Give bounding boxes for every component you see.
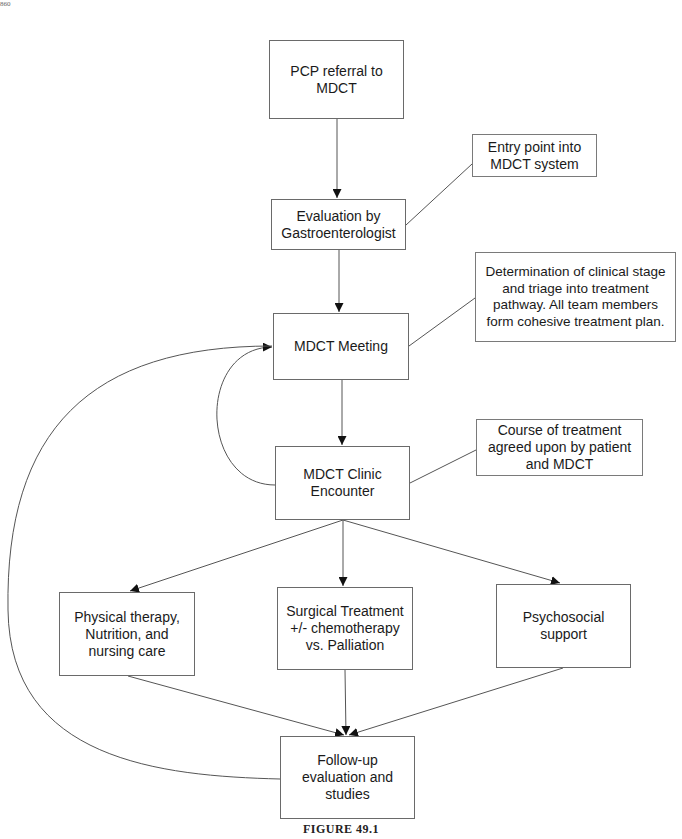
node-label: Follow-up evaluation and studies [285, 752, 410, 803]
node-pcp-referral: PCP referral to MDCT [269, 40, 404, 119]
node-evaluation: Evaluation by Gastroenterologist [271, 199, 406, 250]
note-label: Entry point into MDCT system [477, 139, 592, 173]
note-determination: Determination of clinical stage and tria… [475, 252, 676, 342]
node-psychosocial: Psychosocial support [496, 584, 631, 668]
node-follow-up: Follow-up evaluation and studies [280, 736, 415, 819]
figure-caption: FIGURE 49.1 [0, 822, 682, 837]
note-label: Course of treatment agreed upon by patie… [481, 422, 638, 473]
node-label: Surgical Treatment +/- chemotherapy vs. … [282, 603, 408, 654]
note-label: Determination of clinical stage and tria… [480, 264, 671, 330]
note-entry-point: Entry point into MDCT system [472, 134, 597, 177]
node-mdct-meeting: MDCT Meeting [273, 313, 409, 380]
node-surgical-treatment: Surgical Treatment +/- chemotherapy vs. … [277, 587, 413, 670]
node-label: Psychosocial support [501, 609, 626, 643]
note-course: Course of treatment agreed upon by patie… [476, 419, 643, 476]
node-label: Physical therapy, Nutrition, and nursing… [64, 609, 190, 660]
node-label: MDCT Clinic Encounter [280, 466, 405, 500]
node-clinic-encounter: MDCT Clinic Encounter [275, 446, 410, 520]
node-label: Evaluation by Gastroenterologist [276, 208, 401, 242]
node-physical-therapy: Physical therapy, Nutrition, and nursing… [59, 592, 195, 676]
node-label: MDCT Meeting [294, 338, 388, 355]
node-label: PCP referral to MDCT [274, 63, 399, 97]
